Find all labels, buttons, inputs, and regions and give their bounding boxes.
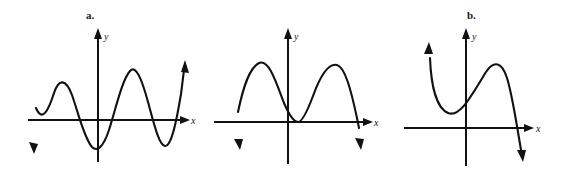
curve-a-left-arrow	[29, 142, 38, 154]
curve-c	[430, 58, 521, 150]
curve-c-left-arrow	[424, 42, 433, 54]
curve-a	[36, 69, 184, 149]
graph-panel-a: y x a.	[0, 0, 200, 176]
y-axis-label-a: y	[103, 31, 109, 42]
y-axis-label-c: y	[471, 31, 477, 42]
curve-b-left-arrow	[234, 139, 243, 150]
x-axis-arrow-c	[524, 124, 534, 132]
x-axis-arrow-b	[363, 118, 373, 126]
graph-panel-c: y x c.	[388, 0, 562, 176]
y-axis-arrow-c	[462, 28, 470, 39]
x-axis-label-c: x	[535, 123, 541, 134]
three-graph-figure: y x a. y x b.	[0, 0, 562, 176]
curve-c-right-arrow	[517, 150, 526, 162]
graph-a-svg: y x	[0, 0, 200, 176]
x-axis-arrow-a	[180, 116, 190, 124]
curve-b-right-arrow	[355, 138, 364, 150]
graph-panel-b: y x b.	[195, 0, 380, 176]
curve-a-right-arrow	[181, 60, 189, 73]
y-axis-arrow-b	[284, 28, 292, 39]
y-axis-label-b: y	[293, 31, 299, 42]
y-axis-arrow-a	[94, 28, 102, 39]
panel-label-a: a.	[86, 9, 94, 21]
graph-c-svg: y x	[388, 0, 562, 176]
graph-b-svg: y x	[195, 0, 380, 176]
curve-b	[238, 63, 359, 128]
x-axis-label-b: x	[373, 117, 379, 128]
